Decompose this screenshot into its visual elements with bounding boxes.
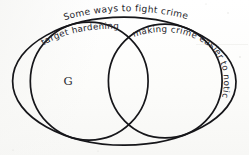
universe-label: Some ways to fight crime bbox=[62, 3, 189, 22]
diagram-canvas: Some ways to fight crime target hardenin… bbox=[0, 0, 249, 155]
venn-diagram: Some ways to fight crime target hardenin… bbox=[0, 0, 249, 155]
universe-label-text: Some ways to fight crime bbox=[62, 3, 189, 22]
set-label-making-crime-easier-to-notice: making crime easier to notice bbox=[0, 0, 232, 99]
element-marker-g: G bbox=[63, 74, 72, 88]
set-label-making-crime-easier-to-notice-text: making crime easier to notice bbox=[0, 0, 232, 99]
